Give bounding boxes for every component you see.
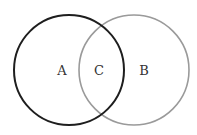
label-c-intersection: C <box>94 63 104 78</box>
label-a: A <box>56 63 67 78</box>
circle-a <box>14 15 124 125</box>
venn-diagram: A C B <box>0 0 197 135</box>
label-b: B <box>139 63 149 78</box>
